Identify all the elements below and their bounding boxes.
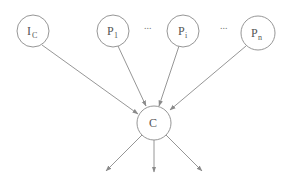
node-pn: P n xyxy=(241,16,275,50)
node-label: P xyxy=(107,24,114,38)
diagram-canvas: I C P 1 ... P i ... P n C xyxy=(0,0,290,181)
node-label: P xyxy=(251,26,258,40)
node-label: P xyxy=(178,24,185,38)
edge-c-out-left xyxy=(106,135,142,171)
node-p1: P 1 xyxy=(97,15,129,47)
ellipsis: ... xyxy=(144,20,152,31)
edge-ic-to-c xyxy=(42,45,138,114)
edge-pn-to-c xyxy=(170,46,246,110)
edge-c-out-right xyxy=(166,135,202,171)
node-subscript: 1 xyxy=(114,31,118,40)
node-c: C xyxy=(137,106,171,140)
node-label: C xyxy=(149,116,157,130)
node-pi: P i xyxy=(167,15,199,47)
node-ic: I C xyxy=(17,15,49,47)
ellipsis: ... xyxy=(220,20,228,31)
edge-p1-to-c xyxy=(118,46,146,106)
node-label: I xyxy=(27,24,31,38)
edge-pi-to-c xyxy=(159,46,179,106)
node-subscript: C xyxy=(32,31,37,40)
node-subscript: n xyxy=(258,33,262,42)
